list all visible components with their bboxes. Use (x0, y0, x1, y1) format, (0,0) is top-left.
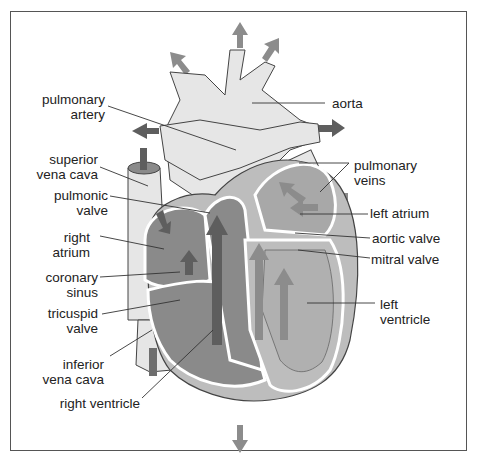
right-atrium-shape (145, 208, 210, 287)
label-right-atrium: rightatrium (20, 230, 90, 260)
label-inferior-vena-cava: inferiorvena cava (20, 357, 104, 387)
label-left-ventricle: leftventricle (380, 297, 430, 327)
label-right-ventricle: right ventricle (20, 396, 140, 411)
label-superior-vena-cava: superiorvena cava (20, 152, 98, 182)
label-aortic-valve: aortic valve (372, 231, 440, 246)
label-mitral-valve: mitral valve (371, 252, 439, 267)
label-pulmonic-valve: pulmonicvalve (20, 188, 108, 218)
label-coronary-sinus: coronarysinus (20, 270, 98, 300)
label-pulmonary-artery: pulmonaryartery (20, 92, 105, 122)
label-left-atrium: left atrium (370, 206, 429, 221)
label-aorta: aorta (332, 96, 363, 111)
label-tricuspid-valve: tricuspidvalve (20, 306, 98, 336)
label-pulmonary-veins: pulmonaryveins (354, 158, 417, 188)
